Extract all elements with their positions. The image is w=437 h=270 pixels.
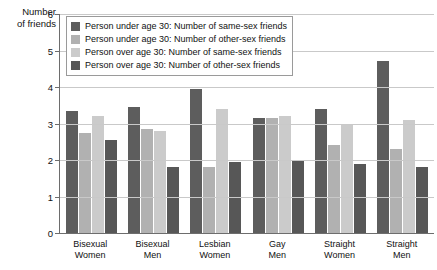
x-axis-label: Straight Men <box>371 239 433 261</box>
bar <box>403 120 415 233</box>
bar <box>128 107 140 233</box>
y-tick-mark <box>55 233 59 234</box>
bar <box>341 124 353 234</box>
legend-item-label: Person under age 30: Number of same-sex … <box>85 21 287 32</box>
x-axis-label: Bisexual Women <box>59 239 121 261</box>
y-tick-label: 4 <box>37 82 53 93</box>
bar-chart: Number of friends 0123456 Bisexual Women… <box>0 0 437 270</box>
bar <box>66 111 78 233</box>
y-tick-mark <box>55 160 59 161</box>
y-tick-label: 2 <box>37 155 53 166</box>
bar <box>390 149 402 233</box>
gridline <box>60 87 434 88</box>
legend-item: Person over age 30: Number of other-sex … <box>71 59 287 72</box>
y-tick-mark <box>55 51 59 52</box>
bar <box>203 167 215 233</box>
bar <box>253 118 265 233</box>
y-tick-label: 5 <box>37 45 53 56</box>
legend-swatch-icon <box>71 35 80 44</box>
bar <box>216 109 228 233</box>
y-tick-mark <box>55 87 59 88</box>
legend-item: Person under age 30: Number of other-sex… <box>71 33 287 46</box>
gridline <box>60 197 434 198</box>
legend: Person under age 30: Number of same-sex … <box>66 16 293 76</box>
bar <box>266 118 278 233</box>
legend-item-label: Person over age 30: Number of other-sex … <box>85 60 280 71</box>
bar <box>167 167 179 233</box>
gridline <box>60 124 434 125</box>
bar <box>354 164 366 233</box>
legend-item: Person under age 30: Number of same-sex … <box>71 20 287 33</box>
legend-item-label: Person under age 30: Number of other-sex… <box>85 34 286 45</box>
bar <box>105 140 117 233</box>
x-axis-label: Bisexual Men <box>121 239 183 261</box>
legend-swatch-icon <box>71 48 80 57</box>
x-axis-label: Straight Women <box>308 239 370 261</box>
bar <box>328 145 340 233</box>
bar <box>315 109 327 233</box>
y-tick-label: 0 <box>37 228 53 239</box>
y-tick-mark <box>55 197 59 198</box>
y-tick-mark <box>55 124 59 125</box>
gridline <box>60 14 434 15</box>
bar <box>92 116 104 233</box>
y-tick-label: 3 <box>37 118 53 129</box>
y-tick-mark <box>55 14 59 15</box>
legend-item-label: Person over age 30: Number of same-sex f… <box>85 47 282 58</box>
x-axis-label: Gay Men <box>246 239 308 261</box>
y-tick-label: 6 <box>37 9 53 20</box>
bar <box>141 129 153 233</box>
bar <box>79 133 91 233</box>
legend-swatch-icon <box>71 22 80 31</box>
bar <box>154 131 166 233</box>
gridline <box>60 160 434 161</box>
bar <box>416 167 428 233</box>
x-axis-label: Lesbian Women <box>184 239 246 261</box>
legend-swatch-icon <box>71 61 80 70</box>
y-tick-label: 1 <box>37 191 53 202</box>
bar <box>279 116 291 233</box>
legend-item: Person over age 30: Number of same-sex f… <box>71 46 287 59</box>
